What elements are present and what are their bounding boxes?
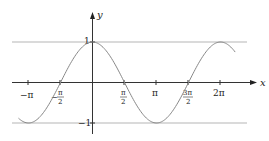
svg-text:2: 2 [58,98,62,106]
x-axis-arrow-icon [250,80,257,85]
chart-canvas: x y −π − π 2 π 2 [0,0,269,141]
svg-text:2: 2 [186,98,190,106]
tick-label-y-neg-1: −1 [78,118,91,128]
tick-label-pi: π [152,88,158,98]
tick-label-two-pi: 2π [213,88,225,98]
x-axis-label: x [260,77,266,88]
svg-text:π: π [58,89,63,97]
y-axis-arrow-icon [90,12,95,19]
tick-label-three-half-pi: 3π 2 [183,89,193,106]
tick-label-neg-pi: −π [20,90,34,100]
tick-label-half-pi: π 2 [120,89,127,106]
svg-text:π: π [121,89,126,97]
cosine-chart: x y −π − π 2 π 2 [0,0,269,141]
y-axis-label: y [96,9,103,20]
svg-text:2: 2 [121,98,125,106]
